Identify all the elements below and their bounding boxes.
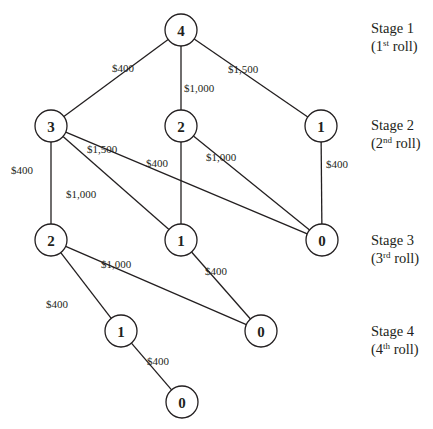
node-value: 0 (178, 395, 186, 411)
edge-cost-label: $1,500 (87, 143, 118, 155)
edge-s2_1-s3_0 (321, 142, 322, 224)
edge-cost-label: $1,000 (66, 188, 97, 200)
node-value: 1 (177, 233, 185, 249)
node-s4_0: 0 (245, 315, 277, 347)
edge-cost-label: $1,000 (184, 82, 215, 94)
node-value: 2 (47, 233, 55, 249)
edge-cost-label: $400 (205, 265, 228, 277)
stage-roll: (3rd roll) (371, 249, 419, 267)
node-s2_2: 2 (165, 110, 197, 142)
stage-label-2: Stage 2 (2nd roll) (371, 116, 421, 152)
stage-roll: (4th roll) (371, 340, 419, 358)
edge-labels-layer: $400$1,000$1,500$400$1,000$1,500$400$1,0… (11, 62, 349, 367)
node-value: 2 (177, 119, 185, 135)
edge-cost-label: $400 (11, 164, 34, 176)
node-s4_1: 1 (105, 315, 137, 347)
node-value: 1 (117, 324, 125, 340)
node-s5_0: 0 (166, 386, 198, 418)
stage-network-diagram: $400$1,000$1,500$400$1,000$1,500$400$1,0… (0, 0, 433, 429)
edge-cost-label: $400 (147, 355, 170, 367)
stage-title: Stage 4 (371, 322, 419, 340)
stage-label-4: Stage 4 (4th roll) (371, 322, 419, 358)
edge-cost-label: $1,500 (228, 63, 259, 75)
stage-title: Stage 3 (371, 231, 419, 249)
node-s3_1: 1 (165, 224, 197, 256)
node-value: 3 (47, 119, 55, 135)
node-value: 4 (177, 23, 185, 39)
edge-s1_4-s2_3 (64, 40, 168, 117)
edge-cost-label: $1,000 (101, 258, 132, 270)
node-s2_3: 3 (35, 110, 67, 142)
edge-cost-label: $400 (46, 298, 69, 310)
stage-roll: (2nd roll) (371, 134, 421, 152)
edge-cost-label: $400 (112, 62, 135, 74)
stage-title: Stage 1 (371, 19, 418, 37)
edge-s1_4-s2_1 (194, 39, 308, 117)
stage-roll: (1st roll) (371, 37, 418, 55)
edge-cost-label: $1,000 (206, 151, 237, 163)
edge-s3_2-s4_0 (66, 246, 247, 324)
edge-cost-label: $400 (146, 157, 169, 169)
node-value: 1 (317, 119, 325, 135)
edge-cost-label: $400 (326, 158, 349, 170)
node-value: 0 (257, 324, 265, 340)
node-s2_1: 1 (305, 110, 337, 142)
stage-label-1: Stage 1 (1st roll) (371, 19, 418, 55)
node-s3_2: 2 (35, 224, 67, 256)
stage-title: Stage 2 (371, 116, 421, 134)
edge-s3_1-s4_0 (192, 252, 251, 319)
node-s1_4: 4 (165, 14, 197, 46)
node-value: 0 (318, 233, 326, 249)
node-s3_0: 0 (306, 224, 338, 256)
stage-label-3: Stage 3 (3rd roll) (371, 231, 419, 267)
